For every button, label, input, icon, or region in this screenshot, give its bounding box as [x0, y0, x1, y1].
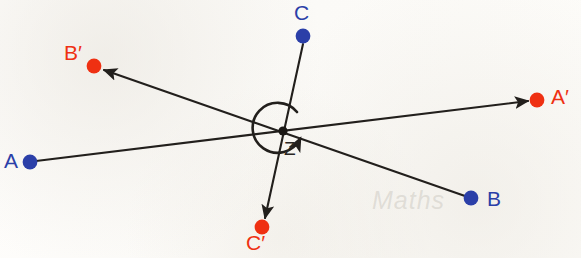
point-c [296, 29, 311, 44]
point-b [464, 191, 479, 206]
point-a-prime [530, 93, 545, 108]
label-b: B [487, 188, 501, 209]
label-c-prime: C′ [246, 232, 265, 253]
point-b-prime [87, 59, 102, 74]
centre-point-z [278, 126, 287, 135]
point-a [23, 155, 38, 170]
label-a-prime: A′ [551, 86, 569, 107]
diagram-svg [0, 0, 581, 258]
label-z: Z [284, 139, 296, 158]
label-c: C [294, 2, 309, 23]
label-a: A [4, 150, 18, 171]
label-b-prime: B′ [64, 42, 82, 63]
rotation-diagram-canvas: Maths A B C A′ B′ C′ Z [0, 0, 581, 258]
